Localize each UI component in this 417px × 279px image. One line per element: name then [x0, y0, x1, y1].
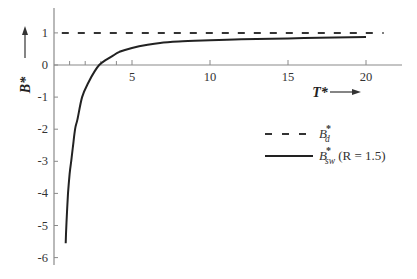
- y-tick-label: 0: [42, 58, 48, 72]
- x-tick-label: 10: [204, 70, 217, 84]
- x-tick-label: 15: [282, 70, 295, 84]
- y-tick-label: -5: [38, 219, 48, 233]
- legend-item-b-d: B*d: [265, 123, 331, 144]
- legend: B*d B*sw (R = 1.5): [265, 123, 386, 166]
- legend-label-b-d: B*d: [319, 123, 331, 144]
- legend-item-b-sw: B*sw (R = 1.5): [265, 145, 386, 166]
- y-tick-label: 1: [42, 26, 48, 40]
- dashed-line-end-dot: [382, 32, 384, 34]
- y-tick-label: -3: [38, 154, 48, 168]
- y-tick-label: -2: [38, 122, 48, 136]
- y-tick-label: -6: [38, 251, 48, 265]
- legend-label-b-sw: B*sw (R = 1.5): [319, 145, 386, 166]
- tick-labels: 510152010-1-2-3-4-5-6: [38, 26, 373, 265]
- x-tick-label: 20: [360, 70, 373, 84]
- ticks: [54, 33, 366, 258]
- x-axis-label-group: T*: [312, 85, 361, 100]
- y-tick-label: -4: [38, 186, 49, 200]
- x-tick-label: 5: [129, 70, 135, 84]
- y-axis-label-group: B*: [18, 26, 33, 94]
- x-arrowhead-icon: [352, 89, 361, 95]
- y-tick-label: -1: [38, 90, 48, 104]
- y-arrowhead-icon: [22, 26, 28, 35]
- y-axis-label: B*: [18, 76, 33, 94]
- chart: 510152010-1-2-3-4-5-6 B* T* B*d B*sw (R …: [0, 0, 417, 279]
- x-axis-label: T*: [312, 85, 329, 100]
